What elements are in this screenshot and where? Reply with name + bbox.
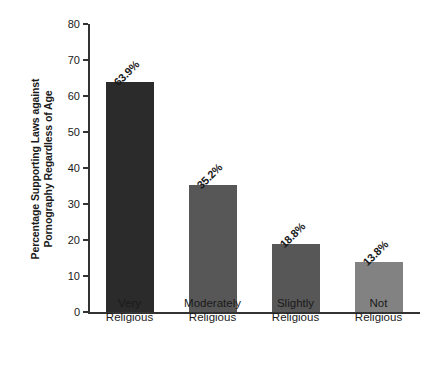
x-axis-category-label-line: Very: [106, 296, 153, 310]
y-tick-mark: [83, 239, 88, 241]
bar: [106, 82, 154, 312]
y-tick-label: 0: [74, 306, 80, 318]
y-axis-title: Percentage Supporting Laws against Porno…: [24, 44, 60, 294]
x-axis-category-label: SlightlyReligious: [272, 296, 319, 324]
y-tick-mark: [83, 23, 88, 25]
x-axis-category-label-line: Religious: [272, 310, 319, 324]
x-axis-category-label-line: Moderately: [184, 296, 241, 310]
y-tick-label: 30: [68, 198, 80, 210]
plot-area: 01020304050607080 63.9%35.2%18.8%13.8%: [88, 24, 420, 312]
y-tick-mark: [83, 95, 88, 97]
x-axis-category-label: ModeratelyReligious: [184, 296, 241, 324]
y-tick-mark: [83, 167, 88, 169]
x-axis-category-label: VeryReligious: [106, 296, 153, 324]
x-axis-category-label-line: Religious: [106, 310, 153, 324]
y-tick-label: 60: [68, 90, 80, 102]
y-tick-label: 50: [68, 126, 80, 138]
y-axis-title-line-2: Pornography Regardless of Age: [42, 90, 56, 247]
bar: [189, 185, 237, 312]
y-axis-line: [88, 24, 90, 312]
y-axis-title-line-1: Percentage Supporting Laws against: [29, 79, 43, 260]
y-tick-mark: [83, 311, 88, 313]
x-axis-category-label-line: Slightly: [272, 296, 319, 310]
y-tick-label: 10: [68, 270, 80, 282]
x-axis-category-label-line: Not: [355, 296, 402, 310]
y-tick-mark: [83, 275, 88, 277]
y-tick-label: 40: [68, 162, 80, 174]
y-tick-label: 70: [68, 54, 80, 66]
y-tick-mark: [83, 59, 88, 61]
x-axis-category-label: NotReligious: [355, 296, 402, 324]
x-axis-category-label-line: Religious: [184, 310, 241, 324]
bar-chart: Percentage Supporting Laws against Porno…: [0, 0, 446, 374]
y-tick-mark: [83, 203, 88, 205]
y-tick-label: 20: [68, 234, 80, 246]
y-tick-mark: [83, 131, 88, 133]
x-axis-category-label-line: Religious: [355, 310, 402, 324]
y-tick-label: 80: [68, 18, 80, 30]
